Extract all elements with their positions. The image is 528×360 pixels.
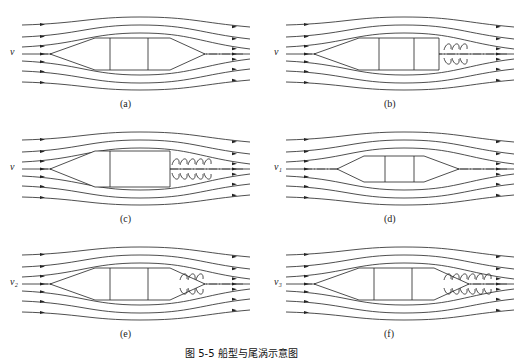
velocity-label: v: [10, 161, 14, 172]
panel-b: v(b): [264, 0, 528, 115]
panel-label: (d): [384, 213, 396, 224]
panel-c: v(c): [0, 115, 264, 230]
panel-label: (c): [120, 213, 131, 224]
figure-caption: 图 5-5 船型与尾涡示意图: [185, 345, 298, 360]
velocity-label: v: [10, 46, 14, 57]
panel-label: (f): [384, 328, 394, 339]
panel-label: (e): [120, 328, 131, 339]
streamline-diagram: [264, 230, 528, 345]
panel-label: (a): [120, 98, 131, 109]
streamline-diagram: [264, 115, 528, 230]
velocity-label: v₃: [274, 276, 282, 287]
panel-e: v₂(e): [0, 230, 264, 345]
velocity-label: v: [274, 46, 278, 57]
streamline-diagram: [264, 0, 528, 115]
velocity-label: v₂: [10, 276, 18, 287]
panel-f: v₃(f): [264, 230, 528, 345]
streamline-diagram: [0, 230, 264, 345]
streamline-diagram: [0, 0, 264, 115]
panel-d: v₁(d): [264, 115, 528, 230]
streamline-diagram: [0, 115, 264, 230]
panel-label: (b): [384, 98, 396, 109]
velocity-label: v₁: [274, 161, 282, 172]
panel-a: v(a): [0, 0, 264, 115]
